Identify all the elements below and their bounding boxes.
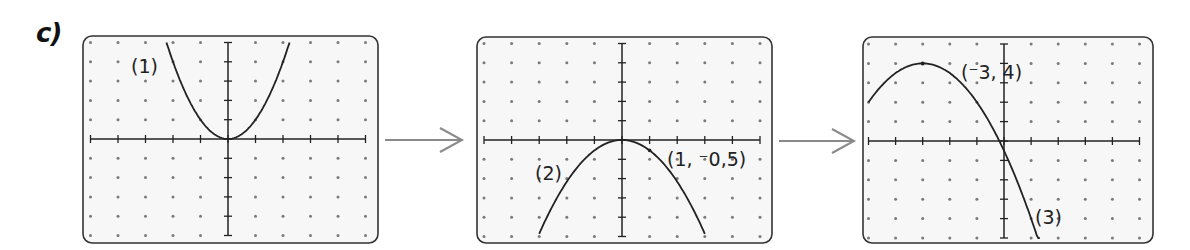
- graph-2-panel: [477, 37, 772, 243]
- graph-2-curve-label: (2): [535, 162, 562, 184]
- graph-3-point-label: (⁻3, 4): [961, 61, 1022, 83]
- graph-3-curve-label: (3): [1035, 206, 1062, 228]
- graph-1-panel: [83, 36, 378, 243]
- graph-1-curve-label: (1): [131, 55, 158, 77]
- arrow-right-icon: [779, 129, 854, 153]
- graph-2-point-label: (1, ⁻0,5): [667, 148, 746, 170]
- arrow-right-icon: [385, 128, 462, 152]
